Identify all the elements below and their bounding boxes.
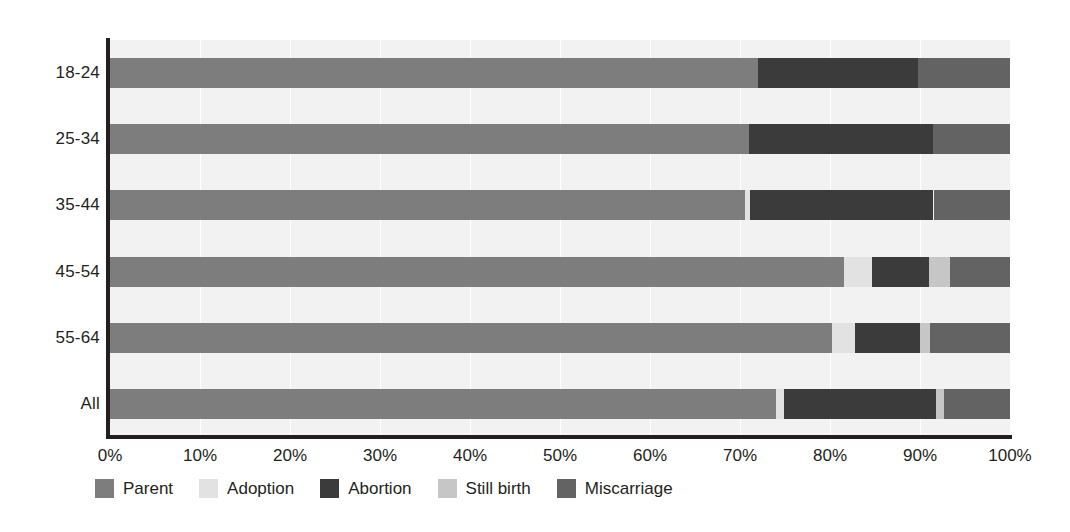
bar-segment-parent: [110, 124, 749, 154]
legend-swatch-abortion: [320, 479, 339, 498]
x-axis-tick-label: 60%: [633, 446, 667, 466]
bar-segment-parent: [110, 257, 844, 287]
bar-segment-abortion: [855, 323, 920, 353]
bar-segment-abortion: [758, 58, 918, 88]
gridline: [920, 40, 921, 437]
legend-item-label: Adoption: [227, 479, 294, 498]
gridline: [560, 40, 561, 437]
bar-segment-abortion: [750, 190, 934, 220]
x-axis-tick-label: 90%: [903, 446, 937, 466]
bar-row: [110, 190, 1010, 220]
x-axis-tick-label: 50%: [543, 446, 577, 466]
x-axis-tick-label: 30%: [363, 446, 397, 466]
legend-item[interactable]: Abortion: [320, 479, 411, 498]
bar-segment-miscarriage: [930, 323, 1010, 353]
bar-segment-still-birth: [920, 323, 930, 353]
gridline: [200, 40, 201, 437]
bar-segment-abortion: [784, 389, 936, 419]
legend-item[interactable]: Parent: [95, 479, 173, 498]
y-axis-tick-label: 55-64: [4, 329, 100, 347]
bar-segment-miscarriage: [933, 124, 1010, 154]
x-axis-tick-label: 20%: [273, 446, 307, 466]
legend-swatch-still-birth: [438, 479, 457, 498]
y-axis-tick-label: All: [4, 395, 100, 413]
x-axis-tick-label: 0%: [98, 446, 123, 466]
bar-segment-abortion: [749, 124, 933, 154]
x-axis-tick-label: 40%: [453, 446, 487, 466]
y-axis-tick-label: 35-44: [4, 196, 100, 214]
legend-swatch-parent: [95, 479, 114, 498]
legend-item[interactable]: Miscarriage: [557, 479, 673, 498]
bar-row: [110, 257, 1010, 287]
bar-segment-miscarriage: [944, 389, 1010, 419]
legend-swatch-miscarriage: [557, 479, 576, 498]
bar-segment-adoption: [776, 389, 784, 419]
legend-item[interactable]: Still birth: [438, 479, 531, 498]
bar-segment-miscarriage: [950, 257, 1010, 287]
x-axis-tick-label: 10%: [183, 446, 217, 466]
y-axis-line: [106, 38, 110, 439]
bar-segment-miscarriage: [934, 190, 1011, 220]
bar-segment-miscarriage: [918, 58, 1010, 88]
bar-segment-adoption: [832, 323, 855, 353]
legend-item-label: Abortion: [348, 479, 411, 498]
x-axis-tick-label: 80%: [813, 446, 847, 466]
bar-segment-parent: [110, 389, 776, 419]
stacked-bar-chart: 18-2425-3435-4445-5455-64All 0%10%20%30%…: [0, 0, 1070, 532]
chart-legend: ParentAdoptionAbortionStill birthMiscarr…: [95, 476, 699, 500]
x-axis-line: [106, 435, 1012, 439]
legend-item-label: Miscarriage: [585, 479, 673, 498]
gridline: [290, 40, 291, 437]
y-axis-tick-label: 18-24: [4, 64, 100, 82]
bar-segment-parent: [110, 58, 758, 88]
gridline: [380, 40, 381, 437]
y-axis-tick-label: 45-54: [4, 263, 100, 281]
gridline: [740, 40, 741, 437]
legend-swatch-adoption: [199, 479, 218, 498]
bar-segment-still-birth: [929, 257, 950, 287]
gridline: [650, 40, 651, 437]
legend-item-label: Parent: [123, 479, 173, 498]
bar-segment-still-birth: [936, 389, 944, 419]
bar-row: [110, 58, 1010, 88]
x-axis-tick-label: 70%: [723, 446, 757, 466]
x-axis-tick-label: 100%: [988, 446, 1031, 466]
bar-row: [110, 389, 1010, 419]
gridline: [470, 40, 471, 437]
bar-segment-abortion: [872, 257, 929, 287]
gridline: [830, 40, 831, 437]
bar-segment-parent: [110, 190, 745, 220]
bar-row: [110, 323, 1010, 353]
legend-item[interactable]: Adoption: [199, 479, 294, 498]
bar-row: [110, 124, 1010, 154]
y-axis-tick-labels: 18-2425-3435-4445-5455-64All: [0, 0, 100, 532]
legend-item-label: Still birth: [466, 479, 531, 498]
y-axis-tick-label: 25-34: [4, 130, 100, 148]
bar-segment-parent: [110, 323, 832, 353]
bar-segment-adoption: [844, 257, 873, 287]
